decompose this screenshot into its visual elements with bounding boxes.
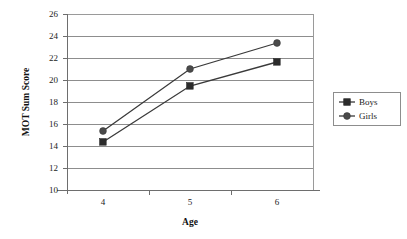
- y-tick-label-24: 24: [49, 31, 59, 41]
- y-tick-label-16: 16: [49, 119, 59, 129]
- y-tickmarks: [63, 14, 67, 190]
- y-tick-labels: 26 24 22 20 18 16 14 12 10: [49, 9, 59, 195]
- boys-point-age-6: [274, 59, 281, 66]
- y-tick-label-18: 18: [49, 97, 59, 107]
- legend-label-girls: Girls: [359, 111, 377, 121]
- x-tick-label-4: 4: [101, 197, 106, 207]
- line-chart: 26 24 22 20 18 16 14 12 10 4 5 6 Age MOT…: [0, 0, 407, 239]
- y-tick-label-20: 20: [49, 75, 59, 85]
- girls-point-age-4: [100, 128, 107, 135]
- x-tickmarks: [149, 190, 231, 195]
- x-tick-labels: 4 5 6: [101, 197, 280, 207]
- girls-point-age-5: [187, 66, 194, 73]
- y-tick-label-22: 22: [49, 53, 58, 63]
- y-tick-label-26: 26: [49, 9, 59, 19]
- x-tick-label-6: 6: [275, 197, 280, 207]
- y-tick-label-14: 14: [49, 141, 59, 151]
- legend-marker-circle-icon: [344, 113, 351, 120]
- legend: Boys Girls: [333, 92, 400, 125]
- legend-entry-boys: Boys: [339, 97, 378, 107]
- legend-label-boys: Boys: [359, 97, 378, 107]
- chart-figure: 26 24 22 20 18 16 14 12 10 4 5 6 Age MOT…: [0, 0, 407, 239]
- y-tick-label-10: 10: [49, 185, 59, 195]
- x-tick-label-5: 5: [188, 197, 193, 207]
- boys-point-age-5: [187, 83, 194, 90]
- boys-point-age-4: [100, 139, 107, 146]
- y-axis-title: MOT Sum Score: [21, 68, 31, 136]
- girls-point-age-6: [274, 40, 281, 47]
- legend-marker-square-icon: [344, 99, 351, 106]
- y-tick-label-12: 12: [49, 163, 58, 173]
- x-axis-title: Age: [182, 217, 198, 227]
